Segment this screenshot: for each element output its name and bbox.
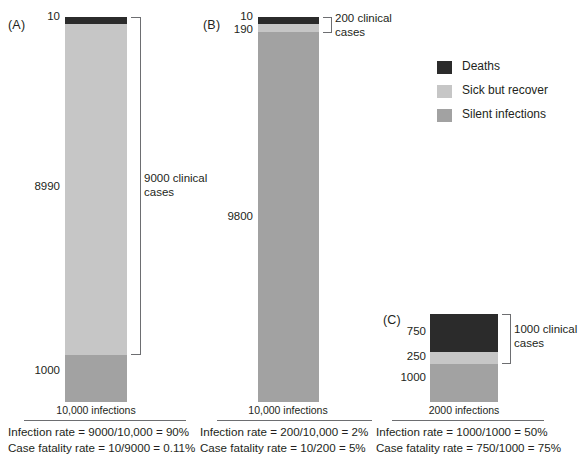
panel-c-bracket	[502, 314, 511, 364]
panel-c-segment-sick	[430, 352, 498, 364]
legend-label-sick-but-recover: Sick but recover	[462, 82, 548, 99]
panel-c-segment-silent	[430, 364, 498, 402]
legend-item-deaths: Deaths	[437, 58, 577, 82]
panel-a-label-deaths: 10	[10, 10, 60, 22]
panel-b-bar	[258, 17, 319, 402]
panel-b-stats: Infection rate = 200/10,000 = 2% Case fa…	[200, 424, 400, 455]
legend-label-silent-infections: Silent infections	[462, 106, 546, 123]
legend-swatch-deaths	[437, 61, 452, 74]
panel-b-label-sick: 190	[203, 23, 253, 35]
panel-c-caption: 2000 infections	[404, 404, 524, 416]
panel-a-segment-deaths	[65, 17, 127, 24]
panel-b-segment-deaths	[258, 17, 319, 24]
figure-canvas: (A) 10 8990 1000 9000 clinical cases 10,…	[0, 0, 584, 461]
panel-a-bracket	[131, 17, 141, 355]
panel-a-bar	[65, 17, 127, 402]
panel-a-bracket-label: 9000 clinical cases	[144, 172, 207, 199]
legend-swatch-sick-but-recover	[437, 85, 452, 98]
legend-label-deaths: Deaths	[462, 58, 500, 75]
panel-c-label-silent: 1000	[378, 371, 426, 383]
legend: Deaths Sick but recover Silent infection…	[437, 58, 577, 130]
panel-c-bar	[430, 314, 498, 402]
panel-c-foot-rule	[392, 420, 544, 421]
panel-c-bracket-label: 1000 clinical cases	[514, 323, 577, 350]
legend-item-sick-but-recover: Sick but recover	[437, 82, 577, 106]
panel-c-segment-deaths	[430, 314, 498, 352]
panel-b-bracket-label: 200 clinical cases	[335, 12, 392, 39]
panel-b-segment-silent	[258, 32, 319, 402]
panel-c-label-deaths: 750	[378, 325, 426, 337]
panel-a-segment-silent	[65, 355, 127, 402]
panel-a-label-silent: 1000	[10, 364, 60, 376]
panel-c-label-sick: 250	[378, 350, 426, 362]
panel-c-stats: Infection rate = 1000/1000 = 50% Case fa…	[376, 424, 584, 455]
legend-item-silent-infections: Silent infections	[437, 106, 577, 130]
panel-b-label-silent: 9800	[203, 210, 253, 222]
panel-b-caption: 10,000 infections	[228, 404, 348, 416]
panel-b-label-deaths: 10	[203, 10, 253, 22]
panel-a-foot-rule	[24, 420, 186, 421]
panel-a-label-sick: 8990	[10, 180, 60, 192]
panel-a-stats: Infection rate = 9000/10,000 = 90% Case …	[8, 424, 208, 455]
panel-b-foot-rule	[217, 420, 372, 421]
panel-b-segment-sick	[258, 24, 319, 32]
panel-a-caption: 10,000 infections	[36, 404, 156, 416]
panel-b-bracket	[323, 17, 332, 33]
panel-a-segment-sick	[65, 24, 127, 355]
legend-swatch-silent-infections	[437, 109, 452, 122]
